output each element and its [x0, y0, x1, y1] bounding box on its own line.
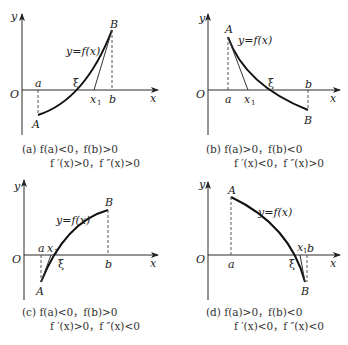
b-label: b [305, 78, 312, 91]
x1-subscript: 1 [251, 99, 255, 107]
point-B-label: B [109, 18, 118, 31]
y-label: y [13, 180, 21, 193]
x1-subscript: 1 [97, 99, 101, 107]
panel-c: y x O a x 1 ξ b A B y=f(x) (c) f(a)<0，f(… [12, 180, 158, 332]
origin-label: O [196, 253, 205, 266]
b-label: b [109, 93, 116, 106]
a-label: a [35, 77, 42, 90]
y-label: y [10, 10, 18, 23]
x-label: x [150, 92, 157, 105]
point-A-label: A [35, 285, 44, 298]
point-B-label: B [300, 285, 309, 298]
y-label: y [198, 178, 206, 191]
x-label: x [330, 257, 337, 270]
point-B-label: B [303, 114, 312, 127]
b-label: b [307, 242, 314, 255]
origin-label: O [196, 88, 205, 101]
panel-d: y x O a ξ x 1 b A B y=f(x) (d) f(a)>0，f(… [196, 178, 340, 332]
caption-line2: f ′(x)>0，f ″(x)>0 [50, 157, 140, 169]
caption-line1: (d) f(a)>0，f(b)<0 [206, 306, 302, 318]
xi-label: ξ [73, 77, 79, 90]
point-A-label: A [227, 184, 236, 197]
a-label: a [38, 242, 45, 255]
caption-line2: f ′(x)<0，f ″(x)>0 [234, 157, 324, 169]
caption-line2: f ′(x)<0，f ″(x)<0 [234, 320, 324, 332]
curve-label: y=f(x) [237, 34, 272, 47]
caption-line2: f ′(x)>0，f ″(x)<0 [50, 320, 140, 332]
point-A-label: A [224, 23, 233, 36]
panel-a: y x O a ξ x 1 b A B y=f(x) (a) f(a)<0，f(… [10, 10, 158, 169]
x1-subscript: 1 [54, 248, 58, 256]
y-label: y [198, 12, 206, 25]
newton-method-figure: y x O a ξ x 1 b A B y=f(x) (a) f(a)<0，f(… [0, 0, 348, 345]
point-B-label: B [104, 196, 113, 209]
xi-label: ξ [58, 258, 64, 271]
xi-label: ξ [268, 77, 274, 90]
caption-line1: (b) f(a)>0，f(b)<0 [206, 143, 302, 155]
curve-label: y=f(x) [65, 45, 100, 58]
x1-label: x [244, 93, 251, 106]
point-A-label: A [31, 118, 40, 131]
x-label: x [150, 257, 157, 270]
a-label: a [225, 93, 232, 106]
tangent-line [41, 255, 51, 282]
b-label: b [105, 258, 112, 271]
caption-line1: (a) f(a)<0，f(b)>0 [22, 143, 118, 155]
curve-label: y=f(x) [55, 214, 90, 227]
a-label: a [228, 258, 235, 271]
x1-label: x [90, 93, 97, 106]
x-label: x [330, 92, 337, 105]
xi-label: ξ [289, 258, 295, 271]
tangent-line [94, 30, 112, 90]
origin-label: O [10, 88, 19, 101]
curve-label: y=f(x) [257, 206, 292, 219]
panel-b: y x O a x 1 ξ b A B y=f(x) (b) f(a)>0，f(… [196, 12, 340, 169]
origin-label: O [12, 253, 21, 266]
caption-line1: (c) f(a)<0，f(b)>0 [22, 306, 118, 318]
x1-label: x [47, 242, 54, 255]
curve [228, 37, 308, 110]
